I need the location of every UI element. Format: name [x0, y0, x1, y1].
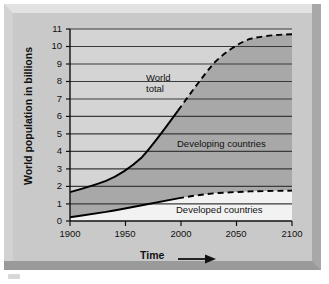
x-tick-label-1900: 1900	[50, 228, 90, 239]
y-tick-label-0: 0	[42, 215, 62, 226]
y-tick-label-1: 1	[42, 198, 62, 209]
x-tick-label-1950: 1950	[105, 228, 145, 239]
y-tick-label-2: 2	[42, 180, 62, 191]
chart-figure: 11 10 9 8 7 6 5 4 3 2 1 0 1900 1950 2000…	[0, 0, 329, 284]
annotation-world-total: World total	[146, 72, 171, 94]
y-tick-label-6: 6	[42, 110, 62, 121]
y-tick-label-10: 10	[42, 40, 62, 51]
x-tick-label-2100: 2100	[272, 228, 312, 239]
y-tick-label-5: 5	[42, 128, 62, 139]
y-tick-label-4: 4	[42, 145, 62, 156]
x-tick-marks	[70, 221, 292, 226]
y-tick-label-7: 7	[42, 93, 62, 104]
x-axis-title: Time	[140, 249, 164, 261]
y-tick-label-3: 3	[42, 163, 62, 174]
annotation-world-total-line1: World	[146, 72, 171, 83]
x-tick-label-2050: 2050	[216, 228, 256, 239]
y-axis-title: World population in billions	[22, 26, 34, 206]
x-tick-label-2000: 2000	[161, 228, 201, 239]
right-arrow-icon	[178, 251, 218, 263]
y-tick-label-9: 9	[42, 58, 62, 69]
annotation-developing-countries: Developing countries	[177, 138, 266, 149]
plot-area: 11 10 9 8 7 6 5 4 3 2 1 0 1900 1950 2000…	[0, 0, 329, 284]
y-tick-label-11: 11	[42, 23, 62, 34]
annotation-developed-countries: Developed countries	[176, 204, 263, 215]
y-tick-label-8: 8	[42, 75, 62, 86]
annotation-world-total-line2: total	[146, 83, 171, 94]
